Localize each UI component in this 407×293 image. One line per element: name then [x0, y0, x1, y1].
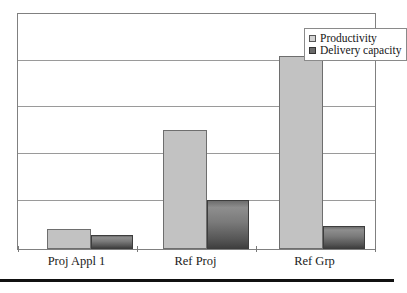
legend-entry-delivery-capacity[interactable]: Delivery capacity [309, 44, 401, 56]
category-label-ref-proj: Ref Proj [136, 254, 255, 269]
bar-delivery-capacity-proj-appl-1[interactable] [91, 235, 133, 249]
bar-delivery-capacity-ref-grp[interactable] [323, 226, 365, 249]
legend-label-productivity: Productivity [320, 32, 377, 44]
category-axis: Proj Appl 1 Ref Proj Ref Grp [17, 252, 376, 276]
bar-group-ref-proj [163, 14, 249, 249]
plot-area: Productivity Delivery capacity [17, 13, 376, 250]
bar-productivity-proj-appl-1[interactable] [47, 229, 91, 249]
bar-productivity-ref-proj[interactable] [163, 130, 207, 249]
category-label-ref-grp: Ref Grp [255, 254, 374, 269]
legend-swatch-icon-delivery-capacity [309, 47, 316, 54]
bar-delivery-capacity-ref-proj[interactable] [207, 200, 249, 249]
chart-legend: Productivity Delivery capacity [304, 28, 407, 61]
category-label-proj-appl-1: Proj Appl 1 [17, 254, 136, 269]
legend-label-delivery-capacity: Delivery capacity [320, 44, 401, 56]
legend-swatch-icon-productivity [309, 35, 316, 42]
legend-entry-productivity[interactable]: Productivity [309, 32, 401, 44]
bar-group-proj-appl-1 [47, 14, 133, 249]
bottom-divider [0, 279, 394, 282]
bar-productivity-ref-grp[interactable] [279, 56, 323, 249]
